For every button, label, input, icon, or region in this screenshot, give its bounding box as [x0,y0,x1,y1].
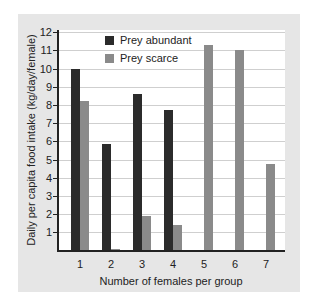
legend-label-scarce: Prey scarce [120,52,178,64]
bar-prey-scarce [266,164,275,250]
bar-prey-abundant [71,69,80,251]
x-tick-label: 6 [225,258,245,270]
y-tick-mark [53,160,57,161]
x-tick-label: 5 [194,258,214,270]
y-tick-mark [53,214,57,215]
gridline [57,32,285,33]
y-tick-mark [53,87,57,88]
gridline [57,87,285,88]
bar-prey-abundant [102,144,111,250]
x-tick-label: 3 [132,258,152,270]
y-tick-mark [53,141,57,142]
x-tick-label: 4 [163,258,183,270]
y-tick-mark [53,69,57,70]
gridline [57,50,285,51]
x-tick-label: 2 [101,258,121,270]
y-axis [57,30,59,251]
bar-prey-scarce [235,50,244,250]
legend-label-abundant: Prey abundant [120,34,192,46]
y-tick-mark [53,32,57,33]
bar-prey-abundant [133,94,142,251]
y-tick-mark [53,123,57,124]
y-tick-mark [53,50,57,51]
y-tick-mark [53,105,57,106]
gridline [57,105,285,106]
x-tick-label: 7 [256,258,276,270]
legend-item-scarce: Prey scarce [105,52,178,64]
bar-prey-scarce [80,101,89,250]
bar-prey-scarce [142,216,151,251]
x-tick-label: 1 [70,258,90,270]
bar-prey-scarce [173,225,182,250]
legend-swatch-abundant [105,36,114,45]
y-axis-title: Daily per capita food intake (kg/day/fem… [25,34,37,246]
x-axis [57,250,285,252]
y-tick-mark [53,196,57,197]
bar-prey-abundant [164,110,173,250]
gridline [57,69,285,70]
bar-prey-scarce [204,45,213,251]
x-axis-title: Number of females per group [57,275,285,287]
legend-item-abundant: Prey abundant [105,34,192,46]
y-tick-mark [53,232,57,233]
legend-swatch-scarce [105,54,114,63]
y-tick-mark [53,178,57,179]
